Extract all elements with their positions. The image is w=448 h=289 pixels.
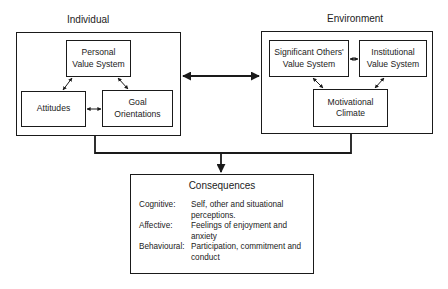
consequences-box: Consequences Cognitive: Self, other and … <box>130 174 314 274</box>
row-key: Affective: <box>139 221 191 242</box>
attitudes-box: Attitudes <box>21 91 86 127</box>
row-key: Behavioural: <box>139 242 191 263</box>
box-label: Institutional <box>367 47 419 58</box>
box-label: Attitudes <box>37 103 70 114</box>
consequence-row-cognitive: Cognitive: Self, other and situational p… <box>139 200 309 221</box>
consequences-title: Consequences <box>131 180 313 191</box>
box-label: Climate <box>328 108 374 119</box>
box-label: Value System <box>72 59 124 70</box>
goal-orientations-box: GoalOrientations <box>102 90 173 127</box>
significant-others-box: Significant Others'Value System <box>269 40 349 77</box>
personal-value-system-box: PersonalValue System <box>66 40 131 77</box>
box-label: Personal <box>72 47 124 58</box>
merge-line <box>95 134 351 153</box>
box-label: Orientations <box>114 109 160 120</box>
box-label: Goal <box>114 97 160 108</box>
consequence-row-behavioural: Behavioural: Participation, commitment a… <box>139 242 309 263</box>
consequence-row-affective: Affective: Feelings of enjoyment and anx… <box>139 221 309 242</box>
environment-label: Environment <box>327 13 383 24</box>
individual-label: Individual <box>67 14 109 25</box>
box-label: Significant Others' <box>274 47 343 58</box>
box-label: Motivational <box>328 97 374 108</box>
row-value: Feelings of enjoyment and anxiety <box>191 221 309 242</box>
row-value: Self, other and situational perceptions. <box>191 200 309 221</box>
box-label: Value System <box>367 59 419 70</box>
row-key: Cognitive: <box>139 200 191 221</box>
row-value: Participation, commitment and conduct <box>191 242 309 263</box>
institutional-value-system-box: InstitutionalValue System <box>359 40 427 77</box>
motivational-climate-box: MotivationalClimate <box>313 89 388 127</box>
box-label: Value System <box>274 59 343 70</box>
